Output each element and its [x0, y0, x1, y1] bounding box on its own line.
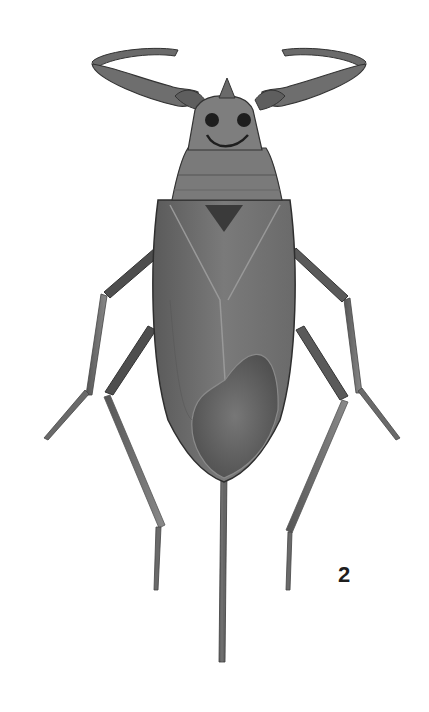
- left-foreleg: [92, 48, 205, 110]
- body: [153, 200, 295, 482]
- right-eye: [237, 113, 251, 127]
- right-hind-leg: [286, 326, 348, 590]
- respiratory-siphon: [219, 470, 227, 662]
- illustration-plate: 2: [0, 0, 429, 712]
- left-eye: [205, 113, 219, 127]
- water-scorpion-illustration: [0, 0, 429, 712]
- figure-number: 2: [338, 564, 350, 586]
- head: [188, 78, 262, 150]
- left-hind-leg: [104, 326, 165, 590]
- pronotum: [172, 148, 282, 200]
- right-foreleg: [255, 48, 366, 110]
